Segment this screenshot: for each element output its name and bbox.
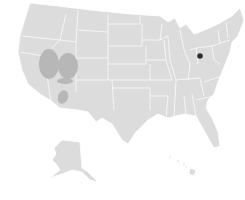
us-map [0, 0, 245, 200]
ohio-marker[interactable] [197, 53, 203, 59]
utah-region [58, 53, 78, 79]
alaska[interactable] [50, 140, 98, 182]
nevada-region [39, 49, 59, 79]
us-map-svg [0, 0, 245, 200]
hawaii[interactable] [169, 156, 196, 176]
utah-arizona-border-region [57, 78, 73, 84]
